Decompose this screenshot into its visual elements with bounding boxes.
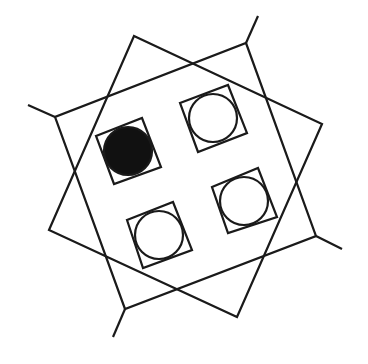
cell-top-right <box>180 85 247 152</box>
empty-circle <box>135 211 183 259</box>
cell-bottom-left <box>127 202 192 268</box>
extension-left <box>28 105 55 117</box>
cell-top-left <box>96 118 161 184</box>
filled-circle <box>104 127 152 175</box>
square-b <box>55 43 316 309</box>
empty-circle <box>189 94 237 142</box>
extension-top <box>246 16 258 43</box>
square-a <box>49 36 322 317</box>
extension-bottom <box>113 309 125 337</box>
empty-circle <box>220 177 268 225</box>
cell-bottom-right <box>212 168 277 233</box>
extension-right <box>316 236 342 249</box>
star-squares-diagram <box>0 0 368 364</box>
diagram-canvas <box>0 0 368 364</box>
